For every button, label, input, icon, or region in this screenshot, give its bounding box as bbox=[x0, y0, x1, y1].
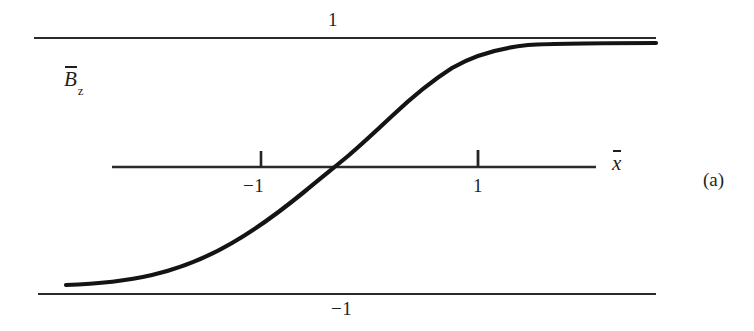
x-tick-label-one: 1 bbox=[473, 176, 483, 195]
x-tick-label-minus-one: −1 bbox=[243, 176, 264, 195]
x-axis-symbol-glyph: x bbox=[612, 152, 621, 174]
sigmoid-curve bbox=[66, 43, 656, 285]
x-axis-symbol-label: x bbox=[612, 152, 621, 174]
plot-canvas bbox=[0, 0, 754, 331]
y-axis-subscript-glyph: z bbox=[78, 83, 84, 98]
figure-panel-a: 1 −1 −1 1 x Bz (a) bbox=[0, 0, 754, 331]
panel-letter-label: (a) bbox=[703, 170, 724, 189]
y-axis-symbol-label: Bz bbox=[64, 68, 83, 93]
lower-asymptote-label: −1 bbox=[331, 299, 352, 318]
y-axis-symbol-glyph: B bbox=[64, 68, 77, 90]
upper-asymptote-label: 1 bbox=[328, 10, 338, 29]
